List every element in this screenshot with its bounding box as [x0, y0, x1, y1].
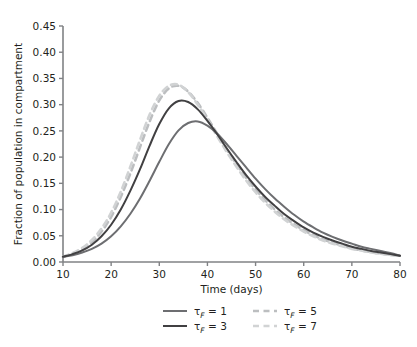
y-tick-label: 0.15 — [33, 177, 56, 189]
x-tick-label: 30 — [153, 268, 166, 280]
y-tick-label: 0.10 — [33, 203, 56, 215]
legend-label: τF = 3 — [194, 320, 227, 335]
x-tick-label: 70 — [345, 268, 358, 280]
x-axis-label: Time (days) — [199, 283, 262, 295]
x-tick-label: 10 — [56, 268, 69, 280]
legend-label: τF = 1 — [194, 305, 227, 320]
y-tick-label: 0.35 — [33, 72, 56, 84]
x-tick-label: 60 — [297, 268, 310, 280]
y-tick-label: 0.30 — [33, 98, 56, 110]
curves-layer — [63, 84, 400, 257]
x-tick-label: 20 — [104, 268, 117, 280]
legend: τF = 1τF = 5τF = 3τF = 7 — [163, 305, 317, 335]
series-line-tau-f-5 — [63, 86, 400, 257]
series-line-tau-f-7 — [63, 84, 400, 257]
y-tick-label: 0.20 — [33, 151, 56, 163]
y-tick-label: 0.25 — [33, 125, 56, 137]
figure-container: 0.000.050.100.150.200.250.300.350.400.45… — [0, 0, 417, 347]
legend-label: τF = 7 — [284, 320, 317, 335]
line-chart: 0.000.050.100.150.200.250.300.350.400.45… — [0, 0, 417, 347]
legend-label: τF = 5 — [284, 305, 317, 320]
y-axis-label: Fraction of population in compartment — [12, 43, 24, 245]
series-line-tau-f-1 — [63, 121, 400, 256]
x-tick-label: 40 — [201, 268, 214, 280]
y-tick-label: 0.05 — [33, 230, 56, 242]
x-tick-label: 80 — [393, 268, 406, 280]
y-tick-label: 0.00 — [33, 256, 56, 268]
y-tick-label: 0.45 — [33, 20, 56, 32]
x-tick-label: 50 — [249, 268, 262, 280]
y-tick-label: 0.40 — [33, 46, 56, 58]
bottom-crop-artifact — [18, 338, 408, 347]
